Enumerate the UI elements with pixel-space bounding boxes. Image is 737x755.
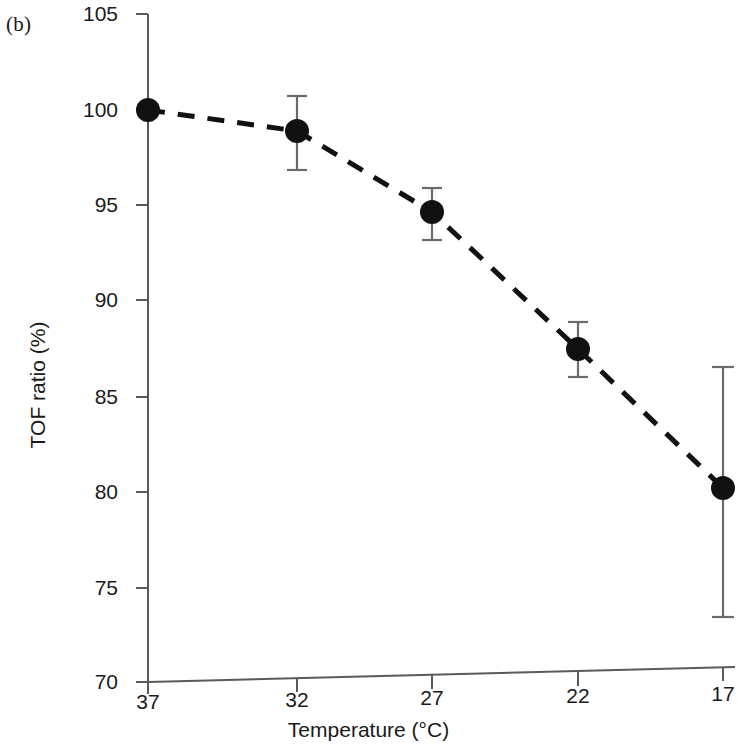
error-bar-group bbox=[287, 96, 734, 617]
series-dashed-line bbox=[148, 110, 723, 488]
data-point-37 bbox=[136, 98, 160, 122]
data-point-32 bbox=[285, 119, 309, 143]
data-point-markers bbox=[136, 98, 735, 500]
figure-panel-b: (b) TOF ratio (%) Temperature (°C) 105 1… bbox=[0, 0, 737, 755]
data-point-17 bbox=[711, 476, 735, 500]
data-point-22 bbox=[566, 337, 590, 361]
plot-area bbox=[0, 0, 737, 755]
x-axis-line bbox=[148, 667, 735, 682]
data-point-27 bbox=[420, 200, 444, 224]
